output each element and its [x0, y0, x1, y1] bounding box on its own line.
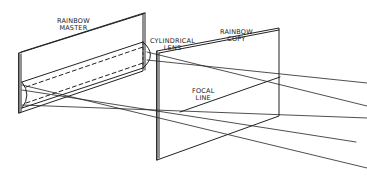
- label-line: LENS: [150, 45, 195, 52]
- label-rainbow-master: RAINBOW MASTER: [57, 18, 90, 32]
- label-line: COPY: [220, 36, 253, 43]
- light-rays: [22, 52, 367, 168]
- label-cylindrical-lens: CYLINDRICAL LENS: [150, 38, 195, 52]
- label-focal-line: FOCAL LINE: [192, 88, 214, 102]
- label-line: MASTER: [57, 25, 90, 32]
- rainbow-hologram-diagram: [0, 0, 367, 181]
- label-line: LINE: [192, 95, 214, 102]
- label-rainbow-copy: RAINBOW COPY: [220, 29, 253, 43]
